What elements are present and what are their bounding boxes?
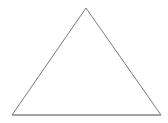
triangle-figure: Triangle — [0, 0, 168, 123]
drawing-canvas: Triangle — [0, 0, 168, 123]
canvas-background — [0, 0, 168, 123]
